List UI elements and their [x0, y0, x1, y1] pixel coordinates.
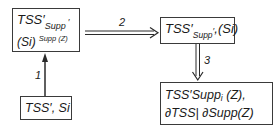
node-b-text: TSS′Supp′,(Si)	[165, 22, 238, 35]
node-a-subprime: ′	[68, 17, 70, 27]
node-c-tss-supp: TSS′Supp	[165, 88, 221, 102]
node-a-line1: TSS′Supp′	[17, 13, 67, 26]
edge-label-3: 3	[204, 55, 210, 66]
node-b: TSS′Supp′,(Si)	[160, 17, 235, 44]
node-a-si: (Si)	[17, 35, 36, 49]
node-c-line1: TSS′Suppi (Z),	[165, 89, 246, 102]
node-c-sub-i: i	[221, 93, 223, 103]
arrow-2	[85, 28, 158, 39]
node-b-sub: Supp	[193, 30, 213, 40]
node-c-z: (Z),	[223, 88, 246, 102]
node-d: TSS′, Si	[20, 96, 72, 120]
node-a-sub: Supp	[45, 21, 66, 31]
node-b-tss: TSS	[165, 21, 190, 36]
arrow-3	[193, 44, 204, 80]
edge-label-1: 1	[35, 70, 41, 81]
edge-label-2: 2	[119, 17, 125, 28]
node-d-text: TSS′, Si	[25, 102, 70, 115]
node-a: TSS′Supp′ (Si)Supp (Z)	[12, 8, 80, 52]
arrow-1	[42, 53, 48, 96]
node-a-tss: TSS	[17, 12, 42, 27]
node-c-line2: ∂TSS| ∂Supp(Z)	[165, 107, 254, 120]
node-c: TSS′Suppi (Z), ∂TSS| ∂Supp(Z)	[160, 82, 273, 125]
node-a-sup: Supp (Z)	[39, 34, 68, 43]
node-b-tail: ,(Si)	[214, 21, 238, 36]
node-a-line2: (Si)Supp (Z)	[17, 36, 65, 48]
